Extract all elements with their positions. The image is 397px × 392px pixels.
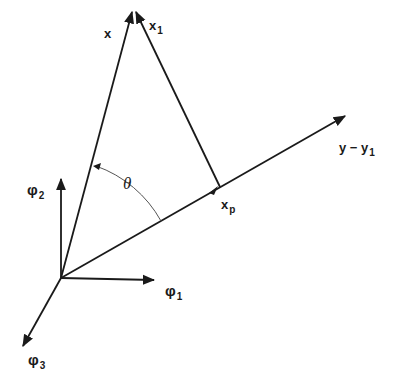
label-phi2-main: φ [27,181,38,198]
label-x1: x1 [149,19,163,32]
label-x1-sub: 1 [157,25,163,36]
label-x1-main: x [149,18,156,33]
label-theta-main: θ [123,174,131,193]
label-xp-sub: p [229,204,235,215]
label-phi3-sub: 3 [40,360,46,371]
label-xp: xp [221,198,235,211]
x1-vector [136,12,220,187]
label-x-main: x [104,26,111,41]
label-phi1-sub: 1 [177,291,183,302]
phi1-axis [61,278,154,280]
label-phi3: φ3 [28,352,45,367]
diagram-canvas [0,0,397,392]
label-phi2-sub: 2 [39,190,45,201]
x-vector [61,12,132,278]
label-phi3-main: φ [28,351,39,368]
y-minus-y1-axis [61,116,345,278]
theta-arc-arrowhead-icon [93,163,101,170]
phi3-axis [23,278,61,346]
label-phi2: φ2 [27,182,44,197]
label-xp-main: x [221,197,228,212]
label-y-sub: 1 [369,147,375,158]
label-phi1-main: φ [165,282,176,299]
label-y-minus-y1: y − y1 [339,141,375,154]
label-phi1: φ1 [165,283,182,298]
label-y-main: y − y [339,140,368,155]
label-theta: θ [123,175,131,192]
label-x: x [104,27,111,40]
